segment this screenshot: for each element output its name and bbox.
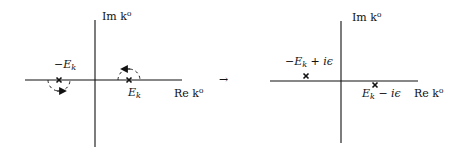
pole-label-shifted-down: Ek − iϵ: [361, 87, 401, 101]
pole-label-positive-energy: Ek: [127, 86, 141, 100]
pole-shifted-down: Ek − iϵ: [361, 83, 401, 102]
right-complex-plane: Im k⁰ Re k⁰ −Ek + iϵ Ek − iϵ: [270, 11, 444, 143]
pole-label-negative-energy: −Ek: [54, 58, 76, 72]
contour-diagram: Im k⁰ Re k⁰ −Ek Ek: [0, 0, 460, 154]
contour-semicircle-above: [118, 69, 140, 80]
right-re-axis-label: Re k⁰: [414, 87, 444, 100]
left-complex-plane: Im k⁰ Re k⁰ −Ek Ek: [25, 10, 204, 147]
pole-label-shifted-up: −Ek + iϵ: [285, 55, 333, 69]
pole-shifted-up: −Ek + iϵ: [285, 55, 333, 79]
left-im-axis-label: Im k⁰: [102, 10, 132, 23]
contour-semicircle-below: [48, 80, 70, 91]
pole-positive-energy: Ek: [118, 69, 141, 100]
pole-negative-energy: −Ek: [48, 58, 76, 91]
transition-arrow-icon: →: [219, 73, 228, 86]
right-im-axis-label: Im k⁰: [352, 11, 382, 24]
left-re-axis-label: Re k⁰: [174, 87, 204, 100]
cross-marker-icon: [304, 74, 309, 79]
